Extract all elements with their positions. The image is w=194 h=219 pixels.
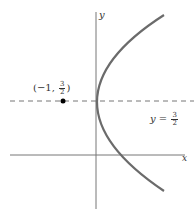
parabola-curve: [97, 15, 164, 191]
vertex-point: [61, 99, 66, 104]
axis-of-symmetry-label: y = 32: [150, 112, 179, 127]
x-axis-label: x: [182, 154, 187, 163]
y-axis-label: y: [99, 10, 105, 20]
graph-canvas: [0, 0, 194, 219]
vertex-label: (−1, 32): [33, 81, 70, 96]
